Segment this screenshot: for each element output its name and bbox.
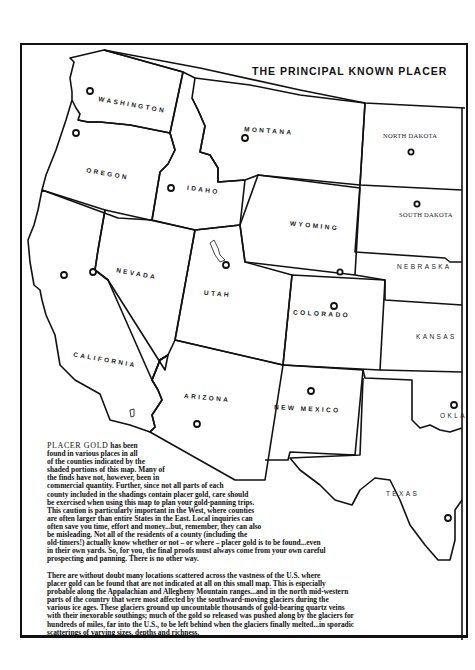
placer-site-south-dakota bbox=[414, 201, 419, 206]
california-border bbox=[28, 190, 168, 432]
placer-site-arizona bbox=[194, 421, 200, 427]
south-dakota-border bbox=[355, 185, 462, 262]
placer-site-california bbox=[61, 272, 67, 278]
placer-site-idaho bbox=[168, 185, 174, 191]
placer-site-nevada bbox=[90, 269, 96, 275]
placer-site-wyoming bbox=[337, 269, 342, 274]
kansas-border bbox=[380, 370, 462, 372]
placer-site-utah bbox=[223, 262, 229, 268]
colorado-border bbox=[283, 275, 385, 370]
nevada-border bbox=[95, 210, 195, 380]
salton-sea bbox=[130, 409, 134, 417]
western-us-map bbox=[0, 0, 475, 670]
map-title: THE PRINCIPAL KNOWN PLACER bbox=[252, 65, 447, 77]
placer-site-new-mexico bbox=[308, 388, 314, 394]
north-dakota-border bbox=[360, 103, 462, 190]
placer-site-oklahoma bbox=[451, 402, 457, 408]
label-north-dakota: NORTH DAKOTA bbox=[383, 132, 437, 139]
placer-site-north-dakota bbox=[408, 149, 413, 154]
label-kansas: KANSAS bbox=[416, 333, 457, 340]
northern-border bbox=[104, 50, 183, 72]
placer-site-colorado bbox=[331, 303, 337, 309]
p2-line: scatterings of varying sizes, depths and… bbox=[47, 629, 437, 637]
canada-border bbox=[104, 50, 465, 108]
placer-site-montana bbox=[242, 135, 248, 141]
label-south-dakota: SOUTH DAKOTA bbox=[399, 211, 453, 218]
label-nebraska: NEBRASKA bbox=[397, 263, 452, 270]
paragraph-placer-gold: PLACER GOLD has been found in various pl… bbox=[47, 442, 417, 563]
placer-site-washington bbox=[87, 88, 93, 94]
label-oklahoma: OKLA bbox=[440, 412, 467, 419]
idaho-border bbox=[152, 72, 245, 230]
p1-line: prospecting and panning. There is no oth… bbox=[47, 555, 417, 563]
oklahoma-border bbox=[363, 370, 462, 432]
paragraph-other-locations: There are without doubt many locations s… bbox=[47, 572, 437, 637]
placer-site-texas bbox=[445, 515, 451, 521]
great-salt-lake bbox=[210, 240, 225, 262]
placer-site-oregon bbox=[73, 130, 79, 136]
